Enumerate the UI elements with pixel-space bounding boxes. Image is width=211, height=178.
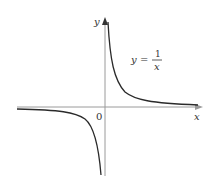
x-axis-label: x	[194, 111, 200, 122]
function-label-numerator: 1	[155, 49, 161, 59]
function-label-denominator: x	[154, 61, 160, 72]
function-label-lhs: y	[130, 54, 137, 65]
origin-label: 0	[96, 111, 102, 122]
function-label-equals: =	[140, 54, 148, 65]
curve-positive-branch	[108, 22, 198, 105]
hyperbola-graph: y x 0 y = 1 x	[0, 0, 211, 178]
y-axis-label: y	[93, 16, 100, 27]
curve-negative-branch	[17, 109, 101, 175]
function-label: y = 1 x	[130, 49, 162, 72]
y-axis-arrow-icon	[102, 17, 108, 25]
